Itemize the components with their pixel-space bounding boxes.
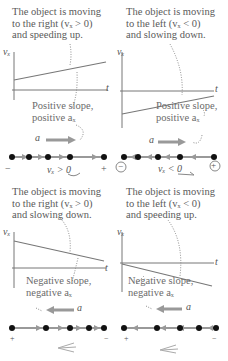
panel-right-speeding-up: The object is moving to the right (vₓ > … (0, 0, 114, 180)
vt-graph (114, 180, 228, 360)
slope-line: Negative slope, (26, 275, 91, 287)
sign-left: + (124, 334, 129, 343)
sign-left: − (5, 163, 11, 174)
slope-line: negative aₓ (26, 287, 91, 299)
vt-graph (0, 180, 114, 360)
sign-right: + (101, 163, 107, 174)
velocity-label: vₓ > 0 (47, 164, 71, 175)
accel-label: a⃗ (186, 301, 199, 312)
x-axis-label: t (105, 262, 108, 273)
slope-text: Negative slope, negative aₓ (26, 275, 91, 298)
sign-right: − (104, 334, 109, 343)
accel-label: a⃗ (77, 302, 90, 313)
velocity-label: vₓ < 0 (158, 163, 182, 174)
slope-line: Negative slope, (128, 275, 193, 287)
y-axis-label: vₓ (117, 46, 124, 57)
vt-graph (0, 0, 114, 180)
x-axis-label: t (215, 83, 218, 94)
dot (9, 154, 15, 160)
panel-right-slowing-down: The object is moving to the right (vₓ > … (0, 180, 114, 360)
velocity-line (14, 241, 104, 261)
accel-label: a⃗ (35, 132, 48, 143)
sign-left: − (118, 161, 123, 171)
y-axis-label: vₓ (117, 226, 124, 237)
vt-graph (114, 0, 228, 180)
slope-line: negative aₓ (128, 287, 193, 299)
accel-label: a⃗ (149, 134, 162, 145)
panel-left-speeding-up: The object is moving to the left (vₓ < 0… (114, 180, 228, 360)
panel-left-slowing-down: The object is moving to the left (vₓ < 0… (114, 0, 228, 180)
slope-line: Positive slope, (32, 100, 93, 112)
y-axis-label: vₓ (3, 226, 10, 237)
slope-text: Positive slope, positive aₓ (32, 100, 93, 123)
sign-right: − (212, 334, 217, 343)
sign-left: + (10, 334, 15, 343)
x-axis-label: t (106, 82, 109, 93)
x-axis-label: t (215, 256, 218, 267)
slope-line: positive aₓ (32, 112, 93, 124)
slope-line: Positive slope, (156, 100, 217, 112)
y-axis-label: vₓ (3, 46, 10, 57)
slope-line: positive aₓ (156, 112, 217, 124)
slope-text: Negative slope, negative aₓ (128, 275, 193, 298)
slope-text: Positive slope, positive aₓ (156, 100, 217, 123)
velocity-line (14, 62, 106, 80)
sign-right: + (211, 160, 216, 170)
pointer-dots (70, 44, 71, 65)
